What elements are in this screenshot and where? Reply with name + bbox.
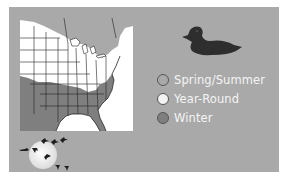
legend-item-year-round: Year-Round [157,89,265,108]
winter-swatch-icon [157,112,169,124]
range-map [20,18,133,131]
legend-label: Year-Round [174,92,239,106]
moon-with-flying-birds-icon [15,135,80,179]
legend: Spring/Summer Year-Round Winter [157,70,265,127]
year-round-swatch-icon [157,93,169,105]
legend-label: Winter [174,111,213,125]
spring-summer-swatch-icon [157,74,169,86]
range-map-svg [20,18,133,131]
legend-item-winter: Winter [157,108,265,127]
legend-label: Spring/Summer [174,73,265,87]
legend-item-spring-summer: Spring/Summer [157,70,265,89]
duck-silhouette-icon [178,25,244,63]
